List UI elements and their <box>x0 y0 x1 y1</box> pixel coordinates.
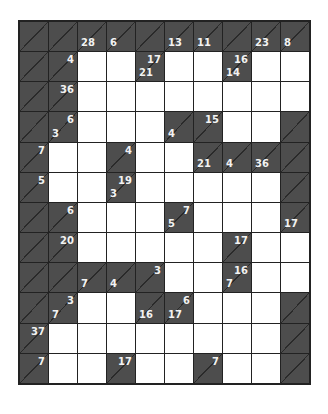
entry-cell[interactable] <box>136 233 164 262</box>
entry-cell[interactable] <box>107 112 135 141</box>
block-cell <box>20 233 48 262</box>
entry-cell[interactable] <box>194 293 222 322</box>
entry-cell[interactable] <box>165 143 193 172</box>
entry-cell[interactable] <box>223 203 251 232</box>
entry-cell[interactable] <box>252 263 280 292</box>
entry-cell[interactable] <box>136 82 164 111</box>
across-clue: 3 <box>67 296 74 306</box>
entry-cell[interactable] <box>252 52 280 81</box>
down-clue: 3 <box>52 129 59 139</box>
down-clue: 14 <box>226 68 240 78</box>
entry-cell[interactable] <box>252 324 280 353</box>
entry-cell[interactable] <box>136 203 164 232</box>
clue-cell: 36 <box>49 82 77 111</box>
across-clue: 17 <box>234 236 248 246</box>
entry-cell[interactable] <box>107 324 135 353</box>
entry-cell[interactable] <box>252 112 280 141</box>
entry-cell[interactable] <box>78 82 106 111</box>
down-clue: 13 <box>168 38 182 48</box>
entry-cell[interactable] <box>136 143 164 172</box>
clue-cell: 13 <box>165 22 193 51</box>
clue-cell: 20 <box>49 233 77 262</box>
entry-cell[interactable] <box>49 173 77 202</box>
entry-cell[interactable] <box>252 82 280 111</box>
entry-cell[interactable] <box>78 52 106 81</box>
across-clue: 3 <box>154 266 161 276</box>
entry-cell[interactable] <box>194 52 222 81</box>
entry-cell[interactable] <box>223 173 251 202</box>
entry-cell[interactable] <box>194 233 222 262</box>
across-clue: 15 <box>205 115 219 125</box>
entry-cell[interactable] <box>194 263 222 292</box>
entry-cell[interactable] <box>136 354 164 383</box>
down-clue: 5 <box>168 219 175 229</box>
entry-cell[interactable] <box>165 52 193 81</box>
entry-cell[interactable] <box>165 82 193 111</box>
clue-cell: 4 <box>49 52 77 81</box>
entry-cell[interactable] <box>78 293 106 322</box>
entry-cell[interactable] <box>252 293 280 322</box>
entry-cell[interactable] <box>49 143 77 172</box>
entry-cell[interactable] <box>194 324 222 353</box>
entry-cell[interactable] <box>165 324 193 353</box>
down-clue: 7 <box>52 310 59 320</box>
entry-cell[interactable] <box>78 354 106 383</box>
entry-cell[interactable] <box>223 324 251 353</box>
across-clue: 4 <box>67 55 74 65</box>
entry-cell[interactable] <box>165 233 193 262</box>
block-cell <box>20 82 48 111</box>
entry-cell[interactable] <box>78 233 106 262</box>
entry-cell[interactable] <box>107 293 135 322</box>
entry-cell[interactable] <box>165 173 193 202</box>
entry-cell[interactable] <box>136 173 164 202</box>
entry-cell[interactable] <box>252 203 280 232</box>
clue-cell: 75 <box>165 203 193 232</box>
across-clue: 16 <box>234 55 248 65</box>
clue-cell: 5 <box>20 173 48 202</box>
entry-cell[interactable] <box>252 354 280 383</box>
entry-cell[interactable] <box>223 354 251 383</box>
across-clue: 17 <box>118 357 132 367</box>
entry-cell[interactable] <box>281 52 309 81</box>
entry-cell[interactable] <box>78 112 106 141</box>
entry-cell[interactable] <box>107 82 135 111</box>
entry-cell[interactable] <box>252 233 280 262</box>
clue-cell: 7 <box>194 354 222 383</box>
entry-cell[interactable] <box>49 324 77 353</box>
entry-cell[interactable] <box>78 173 106 202</box>
clue-cell: 17 <box>281 203 309 232</box>
block-cell <box>281 143 309 172</box>
down-clue: 21 <box>197 159 211 169</box>
clue-cell: 7 <box>20 143 48 172</box>
entry-cell[interactable] <box>78 324 106 353</box>
entry-cell[interactable] <box>78 203 106 232</box>
entry-cell[interactable] <box>194 173 222 202</box>
entry-cell[interactable] <box>136 112 164 141</box>
entry-cell[interactable] <box>165 263 193 292</box>
entry-cell[interactable] <box>107 52 135 81</box>
clue-cell: 6 <box>49 203 77 232</box>
entry-cell[interactable] <box>252 173 280 202</box>
entry-cell[interactable] <box>223 293 251 322</box>
entry-cell[interactable] <box>49 354 77 383</box>
entry-cell[interactable] <box>107 233 135 262</box>
entry-cell[interactable] <box>194 82 222 111</box>
block-cell <box>281 293 309 322</box>
entry-cell[interactable] <box>165 354 193 383</box>
entry-cell[interactable] <box>223 112 251 141</box>
kakuro-board: 2861311238417211614366341574214365193675… <box>18 20 311 385</box>
entry-cell[interactable] <box>107 203 135 232</box>
clue-cell: 17 <box>223 233 251 262</box>
down-clue: 7 <box>81 279 88 289</box>
down-clue: 23 <box>255 38 269 48</box>
entry-cell[interactable] <box>136 324 164 353</box>
block-cell <box>20 52 48 81</box>
entry-cell[interactable] <box>281 82 309 111</box>
entry-cell[interactable] <box>281 263 309 292</box>
entry-cell[interactable] <box>223 82 251 111</box>
clue-cell: 36 <box>252 143 280 172</box>
across-clue: 6 <box>67 115 74 125</box>
entry-cell[interactable] <box>194 203 222 232</box>
entry-cell[interactable] <box>78 143 106 172</box>
entry-cell[interactable] <box>281 233 309 262</box>
